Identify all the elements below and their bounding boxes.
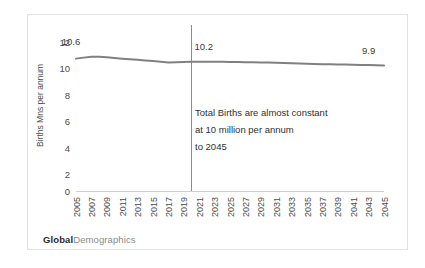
y-axis-title: Births Mns per annum <box>35 64 45 147</box>
x-tick-label: 2021 <box>195 197 205 217</box>
x-tick-label: 2037 <box>318 197 328 217</box>
x-tick-label: 2029 <box>256 197 266 217</box>
y-tick-label: 0 <box>65 186 70 197</box>
x-tick-label: 2017 <box>164 197 174 217</box>
x-tick-label: 2045 <box>380 197 390 217</box>
y-tick-label: 4 <box>65 143 70 154</box>
x-tick-label: 2013 <box>133 197 143 217</box>
data-label-2020: 10.2 <box>195 41 214 52</box>
x-tick-label: 2025 <box>226 197 236 217</box>
x-axis-ticks: 2005200720092011201320152017201920212023… <box>72 197 390 217</box>
x-tick-label: 2023 <box>210 197 220 217</box>
brand-name-bold: Global <box>43 234 73 245</box>
annotation-line-2: at 10 million per annum <box>195 124 294 135</box>
x-tick-label: 2039 <box>333 197 343 217</box>
x-tick-label: 2009 <box>102 197 112 217</box>
x-tick-label: 2027 <box>241 197 251 217</box>
x-tick-label: 2033 <box>287 197 297 217</box>
data-label-2006: 10.6 <box>62 36 80 47</box>
annotation-line-3: to 2045 <box>195 141 227 152</box>
data-label-2043: 9.9 <box>362 45 375 56</box>
brand-footer: GlobalDemographics <box>43 234 136 245</box>
births-series-line <box>76 57 384 66</box>
x-tick-label: 2041 <box>349 197 359 217</box>
y-tick-label: 6 <box>65 116 70 127</box>
x-tick-label: 2011 <box>118 197 128 216</box>
chart-annotation: Total Births are almost constant at 10 m… <box>195 107 328 152</box>
x-tick-label: 2005 <box>72 197 82 217</box>
x-tick-label: 2031 <box>272 197 282 217</box>
brand-name-light: Demographics <box>73 234 135 245</box>
y-tick-label: 2 <box>65 169 70 180</box>
y-tick-label: 10 <box>59 63 70 74</box>
chart-frame: Births Mns per annum 12 10 8 6 4 2 0 10.… <box>27 14 408 250</box>
y-axis-ticks: 12 10 8 6 4 2 0 <box>59 37 70 197</box>
x-tick-label: 2019 <box>179 197 189 217</box>
x-tick-label: 2007 <box>87 197 97 217</box>
annotation-line-1: Total Births are almost constant <box>195 107 328 118</box>
chart-plot-area: Births Mns per annum 12 10 8 6 4 2 0 10.… <box>28 15 407 249</box>
x-tick-label: 2035 <box>303 197 313 217</box>
x-tick-label: 2043 <box>364 197 374 217</box>
y-tick-label: 8 <box>65 90 70 101</box>
data-point-labels: 10.6 10.2 9.9 <box>62 36 376 56</box>
x-tick-label: 2015 <box>149 197 159 217</box>
births-line-chart: Births Mns per annum 12 10 8 6 4 2 0 10.… <box>28 15 407 249</box>
